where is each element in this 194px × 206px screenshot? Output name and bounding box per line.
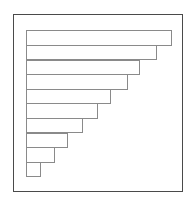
plot-frame-border xyxy=(13,14,183,192)
funnel-chart-figure xyxy=(0,0,194,206)
